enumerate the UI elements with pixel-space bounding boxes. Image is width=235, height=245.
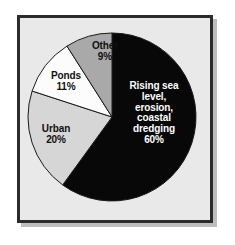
pie-chart: Rising sea level, erosion, coastal dredg…: [0, 0, 235, 245]
figure-container: Rising sea level, erosion, coastal dredg…: [0, 0, 235, 245]
pie-slice-group: [28, 33, 196, 201]
pie-svg: [0, 0, 235, 245]
